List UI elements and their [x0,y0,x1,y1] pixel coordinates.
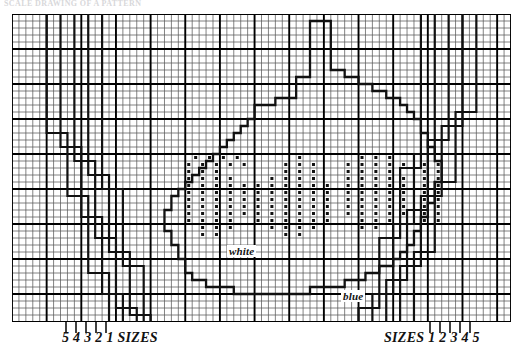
grid-lines-light [12,14,511,322]
pattern-grid-chart [12,14,511,322]
pattern-drawing-page: SCALE DRAWING OF A PATTERN 5 4 3 2 1 SIZ… [0,0,524,353]
sizes-label-left: 5 4 3 2 1 SIZES [62,330,158,346]
grid-svg [12,14,511,322]
annotation-blue: blue [341,290,365,302]
page-caption: SCALE DRAWING OF A PATTERN [4,0,304,10]
annotation-white: white [227,245,256,257]
sizes-label-right: SIZES 1 2 3 4 5 [384,330,480,346]
